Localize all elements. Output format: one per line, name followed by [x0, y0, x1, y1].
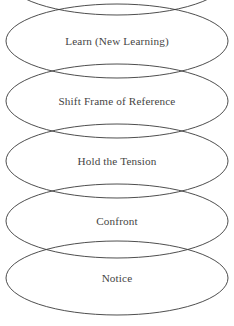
node-confront-label: Confront [96, 215, 138, 227]
node-notice-label: Notice [102, 272, 133, 284]
node-shift-frame-label: Shift Frame of Reference [59, 95, 176, 107]
ellipse-stack-diagram: Learn (New Learning)Shift Frame of Refer… [0, 0, 234, 326]
ellipse-stack: Learn (New Learning)Shift Frame of Refer… [0, 0, 234, 326]
node-hold-tension-label: Hold the Tension [77, 155, 156, 167]
node-learn-label: Learn (New Learning) [65, 35, 169, 47]
node-notice[interactable]: Notice [6, 241, 228, 315]
